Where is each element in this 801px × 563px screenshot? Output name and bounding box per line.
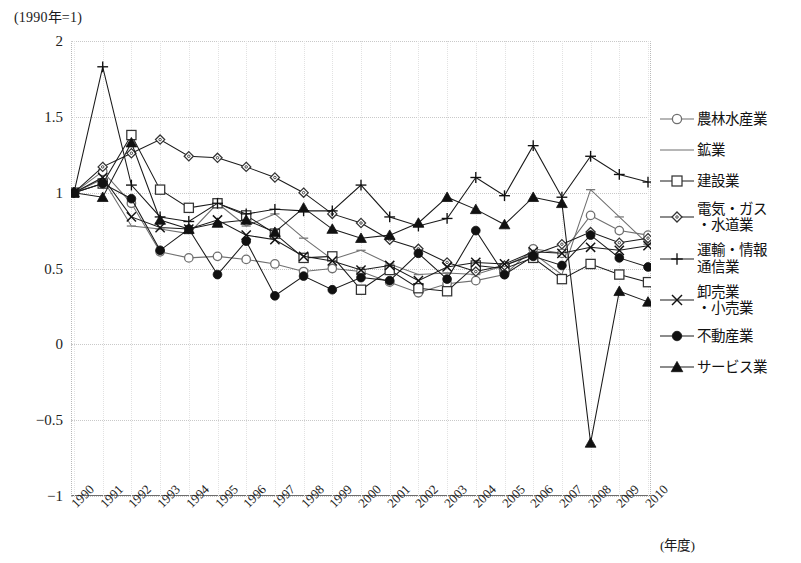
legend-marker-triangle-filled-icon: [657, 357, 697, 377]
y-axis-tick-label: 2: [17, 33, 63, 50]
legend-label: サービス業: [697, 359, 767, 375]
marker-circle-open: [185, 254, 193, 262]
marker-plus: [528, 140, 539, 151]
series-layer: [71, 41, 651, 496]
marker-square-open: [156, 185, 165, 194]
marker-square-open: [672, 176, 682, 186]
marker-circle-filled: [529, 252, 538, 261]
marker-plus: [470, 172, 481, 183]
marker-circle-open: [271, 260, 279, 268]
legend-item-0[interactable]: 農林水産業: [657, 108, 801, 130]
marker-circle-open: [472, 276, 480, 284]
marker-square-open: [443, 287, 452, 296]
marker-diamond-open: [443, 258, 452, 267]
marker-triangle-filled: [384, 230, 395, 240]
marker-triangle-filled: [298, 203, 309, 213]
legend-item-1[interactable]: 鉱業: [657, 139, 801, 161]
marker-triangle-filled: [528, 192, 539, 202]
marker-square-open: [328, 252, 337, 261]
chart-legend: 農林水産業鉱業建設業電気・ガス ・水道業運輸・情報 通信業卸売業 ・小売業不動産…: [657, 108, 801, 387]
marker-circle-open: [328, 264, 336, 272]
marker-square-open: [414, 284, 423, 293]
marker-plus: [270, 204, 281, 215]
legend-marker-circle-open-icon: [657, 109, 697, 129]
legend-marker-circle-filled-icon: [657, 326, 697, 346]
marker-cross: [127, 212, 136, 221]
marker-diamond-open: [270, 173, 279, 182]
marker-circle-filled: [500, 270, 509, 279]
chart-unit-note: (1990年=1): [14, 6, 82, 26]
legend-item-3[interactable]: 電気・ガス ・水道業: [657, 201, 801, 233]
y-axis-tick-label: 0: [17, 336, 63, 353]
marker-circle-filled: [271, 291, 280, 300]
legend-item-5[interactable]: 卸売業 ・小売業: [657, 284, 801, 316]
marker-triangle-filled: [470, 204, 481, 214]
marker-diamond-open: [156, 135, 165, 144]
legend-item-2[interactable]: 建設業: [657, 170, 801, 192]
marker-circle-filled: [213, 270, 222, 279]
marker-diamond-open: [213, 153, 222, 162]
legend-label: 卸売業 ・小売業: [697, 284, 753, 316]
legend-label: 鉱業: [697, 142, 725, 158]
marker-square-open: [184, 203, 193, 212]
marker-circle-filled: [385, 276, 394, 285]
marker-triangle-filled: [585, 438, 596, 448]
legend-marker-plus-icon: [657, 249, 697, 269]
legend-marker-diamond-open-icon: [657, 207, 697, 227]
marker-circle-filled: [98, 179, 107, 188]
legend-marker-line-only-icon: [657, 140, 697, 160]
marker-circle-filled: [586, 231, 595, 240]
marker-square-open: [615, 270, 624, 279]
marker-diamond-open: [356, 218, 365, 227]
marker-square-open: [557, 275, 566, 284]
x-axis: (年度) 19901991199219931994199519961997199…: [0, 496, 801, 563]
y-axis-tick-label: 0.5: [17, 260, 63, 277]
marker-diamond-open: [557, 240, 566, 249]
marker-circle-filled: [672, 332, 682, 342]
y-axis-tick-label: 1: [17, 184, 63, 201]
marker-circle-filled: [127, 194, 136, 203]
marker-circle-open: [586, 211, 594, 219]
marker-circle-filled: [299, 272, 308, 281]
y-axis-tick-label: −0.5: [17, 412, 63, 429]
marker-diamond-open: [672, 212, 682, 222]
marker-circle-filled: [471, 226, 480, 235]
marker-circle-filled: [242, 237, 251, 246]
marker-plus: [614, 169, 625, 180]
y-axis: 21.510.50−0.5−1: [0, 41, 63, 496]
marker-circle-filled: [644, 263, 651, 272]
marker-square-open: [586, 259, 595, 268]
marker-diamond-open: [242, 162, 251, 171]
marker-plus: [97, 61, 108, 72]
marker-triangle-filled: [614, 286, 625, 296]
marker-square-open: [643, 278, 651, 287]
marker-plus: [671, 253, 683, 265]
marker-plus: [643, 177, 651, 188]
legend-label: 運輸・情報 通信業: [697, 242, 767, 274]
x-axis-unit-label: (年度): [660, 534, 695, 554]
marker-triangle-filled: [327, 224, 338, 234]
legend-item-4[interactable]: 運輸・情報 通信業: [657, 242, 801, 274]
marker-circle-filled: [357, 273, 366, 282]
marker-diamond-open: [184, 152, 193, 161]
marker-circle-open: [672, 114, 681, 123]
marker-circle-filled: [156, 246, 165, 255]
marker-circle-filled: [414, 249, 423, 258]
marker-triangle-filled: [442, 192, 453, 202]
marker-circle-open: [242, 255, 250, 263]
marker-circle-filled: [328, 285, 337, 294]
chart-svg: [71, 41, 651, 496]
legend-marker-square-open-icon: [657, 171, 697, 191]
marker-triangle-filled: [155, 215, 166, 225]
marker-diamond-open: [299, 188, 308, 197]
marker-circle-filled: [443, 275, 452, 284]
marker-circle-filled: [615, 254, 624, 263]
marker-triangle-filled: [643, 297, 651, 306]
marker-circle-open: [615, 226, 623, 234]
marker-plus: [585, 151, 596, 162]
legend-item-6[interactable]: 不動産業: [657, 325, 801, 347]
legend-label: 建設業: [697, 173, 739, 189]
legend-label: 農林水産業: [697, 111, 767, 127]
legend-item-7[interactable]: サービス業: [657, 356, 801, 378]
legend-label: 不動産業: [697, 328, 753, 344]
